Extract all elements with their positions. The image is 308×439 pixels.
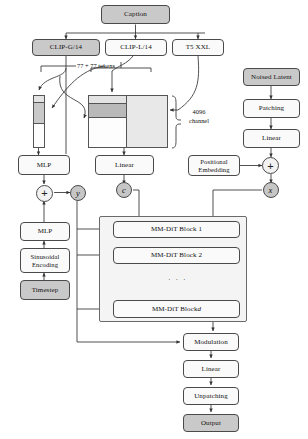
node-positional-embedding-line1: Positional (200, 158, 227, 166)
node-noised-latent-label: Noised Latent (251, 73, 292, 81)
node-mmdit-block-2[interactable]: MM-DiT Block 2 (113, 247, 240, 264)
label-tokens: 77 + 77 tokens (77, 62, 115, 70)
node-mmdit-block-d-label: MM-DiT Block (152, 305, 198, 313)
node-clip-l-label: CLIP-L/14 (120, 43, 152, 51)
node-clip-l[interactable]: CLIP-L/14 (105, 39, 167, 56)
node-mlp-time-label: MLP (38, 227, 53, 235)
node-timestep[interactable]: Timestep (20, 280, 70, 300)
architecture-diagram: Caption CLIP-G/14 CLIP-L/14 T5 XXL 77 + … (0, 0, 308, 439)
pooled-embedding-segment-top (33, 95, 45, 102)
node-mmdit-block-d-index: d (198, 305, 202, 313)
node-patching[interactable]: Patching (243, 99, 300, 118)
node-mmdit-block-1-label: MM-DiT Block 1 (151, 225, 202, 233)
node-mlp-time[interactable]: MLP (20, 222, 70, 241)
tensor-clipl-slice (88, 95, 127, 103)
node-clip-g[interactable]: CLIP-G/14 (32, 39, 100, 56)
node-mlp-text-label: MLP (37, 161, 52, 169)
node-sinusoidal-encoding[interactable]: Sinusoidal Encoding (20, 248, 70, 273)
variable-y-label: y (76, 188, 80, 198)
sum-circle-latent[interactable]: + (262, 157, 279, 174)
node-mlp-text[interactable]: MLP (18, 155, 70, 175)
node-unpatching-label: Unpatching (194, 392, 228, 400)
variable-c-label: c (122, 185, 126, 195)
node-positional-embedding[interactable]: Positional Embedding (188, 155, 240, 176)
node-modulation[interactable]: Modulation (183, 333, 239, 351)
node-positional-embedding-line2: Embedding (198, 166, 229, 174)
node-linear-text-label: Linear (115, 161, 134, 169)
node-caption[interactable]: Caption (101, 5, 170, 24)
tensor-clipg-slice (88, 103, 127, 118)
node-unpatching[interactable]: Unpatching (183, 387, 239, 405)
variable-x-circle: x (263, 182, 279, 198)
node-mmdit-block-2-label: MM-DiT Block 2 (151, 251, 202, 259)
block-ellipsis: · · · (168, 275, 187, 284)
node-sinusoidal-line2: Encoding (32, 261, 58, 269)
node-t5-xxl-label: T5 XXL (186, 43, 211, 51)
node-sinusoidal-line1: Sinusoidal (31, 253, 60, 261)
node-output-label: Output (201, 419, 221, 427)
variable-c-circle: c (116, 182, 132, 198)
label-channel-count: 4096 (182, 108, 216, 116)
pooled-embedding-segment-mid (33, 102, 45, 124)
node-linear-latent[interactable]: Linear (243, 129, 300, 148)
sum-circle-text[interactable]: + (36, 185, 53, 202)
variable-x-label: x (269, 185, 273, 195)
node-mmdit-block-d[interactable]: MM-DiT Block d (113, 300, 240, 318)
node-linear-out-label: Linear (202, 365, 221, 373)
node-linear-text[interactable]: Linear (95, 155, 154, 175)
variable-y-circle: y (70, 185, 86, 201)
node-mmdit-block-1[interactable]: MM-DiT Block 1 (113, 221, 240, 238)
node-linear-out[interactable]: Linear (183, 360, 239, 378)
node-noised-latent[interactable]: Noised Latent (243, 68, 300, 86)
label-channel-word: channel (182, 117, 216, 125)
node-linear-latent-label: Linear (262, 134, 281, 142)
node-modulation-label: Modulation (194, 338, 228, 346)
node-output[interactable]: Output (183, 414, 239, 432)
node-patching-label: Patching (259, 104, 284, 112)
node-clip-g-label: CLIP-G/14 (50, 43, 82, 51)
node-t5-xxl[interactable]: T5 XXL (172, 39, 224, 56)
node-timestep-label: Timestep (32, 286, 59, 294)
node-caption-label: Caption (124, 10, 147, 18)
